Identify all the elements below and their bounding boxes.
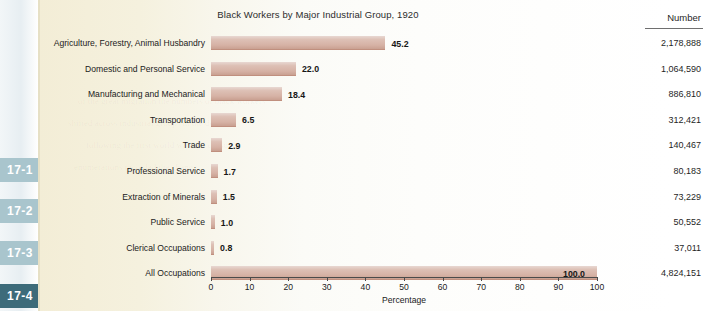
number-cell: 886,810 [668, 89, 701, 99]
bar-value-label: 1.5 [223, 192, 235, 202]
bar-value-label: 1.0 [221, 218, 233, 228]
number-column-rule [645, 28, 703, 29]
chart-panel: of the great migration the numbers of bl… [38, 0, 671, 311]
x-axis-tick-label: 60 [431, 282, 455, 292]
sidebar-tab-17-1[interactable]: 17-1 [0, 158, 40, 182]
x-axis-tick [404, 278, 405, 281]
bar [211, 113, 236, 127]
bar-value-label: 45.2 [391, 39, 408, 49]
sidebar-tab-17-2[interactable]: 17-2 [0, 199, 40, 223]
sidebar-tab-17-4[interactable]: 17-4 [0, 284, 40, 308]
x-axis-tick-label: 50 [392, 282, 416, 292]
bar-category-label: Domestic and Personal Service [85, 64, 205, 74]
bar [211, 87, 282, 101]
x-axis-tick-label: 10 [238, 282, 262, 292]
bar-category-label: Extraction of Minerals [122, 192, 205, 202]
x-axis-title: Percentage [344, 295, 464, 305]
number-cell: 140,467 [668, 140, 701, 150]
number-cell: 37,011 [674, 243, 701, 253]
bar-value-label: 22.0 [302, 64, 319, 74]
x-axis-tick [327, 278, 328, 281]
plot-area: Agriculture, Forestry, Animal Husbandry4… [38, 0, 671, 311]
bar-category-label: Agriculture, Forestry, Animal Husbandry [54, 38, 205, 48]
x-axis-tick-label: 70 [469, 282, 493, 292]
x-axis-tick-label: 30 [315, 282, 339, 292]
bar [211, 138, 222, 152]
bar-category-label: All Occupations [145, 268, 205, 278]
x-axis-tick [250, 278, 251, 281]
bar [211, 36, 385, 50]
bar-category-label: Manufacturing and Mechanical [88, 89, 205, 99]
bar [211, 190, 217, 204]
bar-value-label: 18.4 [288, 90, 305, 100]
x-axis-tick [481, 278, 482, 281]
sidebar-tab-label: 17-1 [7, 163, 33, 177]
x-axis-tick-label: 40 [353, 282, 377, 292]
number-column: Number 2,178,8881,064,590886,810312,4211… [594, 0, 707, 311]
x-axis-tick [211, 278, 212, 281]
bar-category-label: Public Service [151, 217, 205, 227]
x-axis-tick [520, 278, 521, 281]
bar-category-label: Professional Service [127, 166, 205, 176]
bar-category-label: Trade [183, 140, 205, 150]
x-axis-tick-label: 80 [508, 282, 532, 292]
bar [211, 215, 215, 229]
number-cell: 4,824,151 [661, 268, 701, 278]
x-axis-tick-label: 0 [199, 282, 223, 292]
number-cell: 50,552 [673, 217, 701, 227]
sidebar-tab-17-3[interactable]: 17-3 [0, 241, 40, 265]
sidebar-tab-label: 17-2 [7, 204, 33, 218]
bar-category-label: Clerical Occupations [126, 243, 205, 253]
bar-value-label: 2.9 [228, 141, 240, 151]
x-axis-tick [365, 278, 366, 281]
number-cell: 80,183 [673, 166, 701, 176]
bar [211, 241, 214, 255]
sidebar-tab-label: 17-3 [7, 246, 33, 260]
number-cell: 312,421 [668, 115, 701, 125]
bar-value-label: 1.7 [224, 167, 236, 177]
bar [211, 164, 218, 178]
sidebar-tab-label: 17-4 [7, 289, 33, 303]
x-axis-tick [558, 278, 559, 281]
x-axis-tick-label: 20 [276, 282, 300, 292]
x-axis-tick [288, 278, 289, 281]
bar [211, 62, 296, 76]
bar-value-label: 0.8 [220, 243, 232, 253]
number-cell: 73,229 [673, 192, 701, 202]
bar-category-label: Transportation [150, 115, 205, 125]
x-axis-tick [443, 278, 444, 281]
number-column-header: Number [667, 12, 701, 23]
number-cell: 1,064,590 [661, 64, 701, 74]
bar-value-label: 6.5 [242, 115, 254, 125]
x-axis-tick-label: 90 [546, 282, 570, 292]
number-cell: 2,178,888 [661, 38, 701, 48]
